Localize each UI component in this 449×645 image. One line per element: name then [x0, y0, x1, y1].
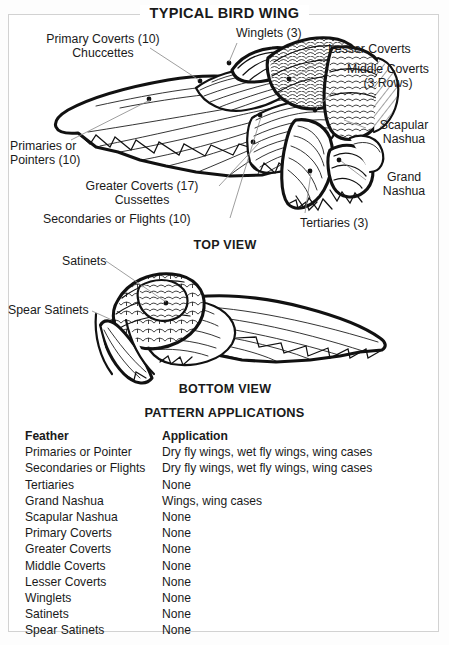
label-primaries: Primaries or Pointers (10) — [10, 139, 80, 167]
plate-title-text: TYPICAL BIRD WING — [140, 5, 310, 21]
table-row: TertiariesNone — [25, 477, 425, 493]
pattern-applications-title: PATTERN APPLICATIONS — [0, 405, 449, 420]
cell-feather: Winglets — [25, 590, 162, 606]
table-row: WingletsNone — [25, 590, 425, 606]
cell-feather: Spear Satinets — [25, 622, 162, 638]
table-row: SatinetsNone — [25, 606, 425, 622]
table-row: Grand NashuaWings, wing cases — [25, 493, 425, 509]
table-row: Secondaries or FlightsDry fly wings, wet… — [25, 460, 425, 476]
label-winglets: Winglets (3) — [236, 26, 302, 40]
cell-feather: Primaries or Pointer — [25, 444, 162, 460]
cell-application: Dry fly wings, wet fly wings, wing cases — [162, 444, 425, 460]
bird-wing-plate: TYPICAL BIRD WING .out{fill:#fff;stroke:… — [0, 0, 449, 645]
label-lesser-coverts: Lesser Coverts — [328, 42, 411, 56]
cell-application: None — [162, 606, 425, 622]
cell-application: None — [162, 477, 425, 493]
table-row: Middle CovertsNone — [25, 558, 425, 574]
cell-application: None — [162, 590, 425, 606]
pattern-applications-table: Feather Application Primaries or Pointer… — [25, 428, 425, 639]
table-row: Primary CovertsNone — [25, 525, 425, 541]
plate-title: TYPICAL BIRD WING — [0, 4, 449, 22]
table-row: Spear SatinetsNone — [25, 622, 425, 638]
cell-feather: Tertiaries — [25, 477, 162, 493]
table-header-row: Feather Application — [25, 428, 425, 444]
cell-application: Wings, wing cases — [162, 493, 425, 509]
table-row: Greater CovertsNone — [25, 541, 425, 557]
label-spear-satinets: Spear Satinets — [8, 303, 89, 317]
label-tertiaries: Tertiaries (3) — [300, 216, 368, 230]
cell-feather: Lesser Coverts — [25, 574, 162, 590]
cell-application: None — [162, 541, 425, 557]
cell-feather: Scapular Nashua — [25, 509, 162, 525]
cell-application: None — [162, 509, 425, 525]
cell-feather: Grand Nashua — [25, 493, 162, 509]
table-row: Scapular NashuaNone — [25, 509, 425, 525]
header-feather: Feather — [25, 428, 162, 444]
cell-application: None — [162, 558, 425, 574]
cell-feather: Middle Coverts — [25, 558, 162, 574]
cell-feather: Primary Coverts — [25, 525, 162, 541]
label-greater-coverts: Greater Coverts (17) Cussettes — [64, 179, 220, 207]
cell-feather: Secondaries or Flights — [25, 460, 162, 476]
label-primary-coverts: Primary Coverts (10) Chuccettes — [28, 32, 178, 60]
cell-feather: Greater Coverts — [25, 541, 162, 557]
cell-feather: Satinets — [25, 606, 162, 622]
top-view-title: TOP VIEW — [160, 238, 290, 252]
label-satinets: Satinets — [62, 254, 106, 268]
label-scapular-nashua: Scapular Nashua — [368, 118, 440, 146]
bottom-view-title: BOTTOM VIEW — [155, 382, 295, 396]
cell-application: None — [162, 574, 425, 590]
cell-application: None — [162, 622, 425, 638]
table-row: Lesser CovertsNone — [25, 574, 425, 590]
label-middle-coverts: Middle Coverts (3 Rows) — [332, 62, 444, 90]
label-grand-nashua: Grand Nashua — [368, 170, 440, 198]
label-secondaries: Secondaries or Flights (10) — [43, 212, 191, 226]
cell-application: Dry fly wings, wet fly wings, wing cases — [162, 460, 425, 476]
table-row: Primaries or PointerDry fly wings, wet f… — [25, 444, 425, 460]
header-application: Application — [162, 428, 425, 444]
cell-application: None — [162, 525, 425, 541]
